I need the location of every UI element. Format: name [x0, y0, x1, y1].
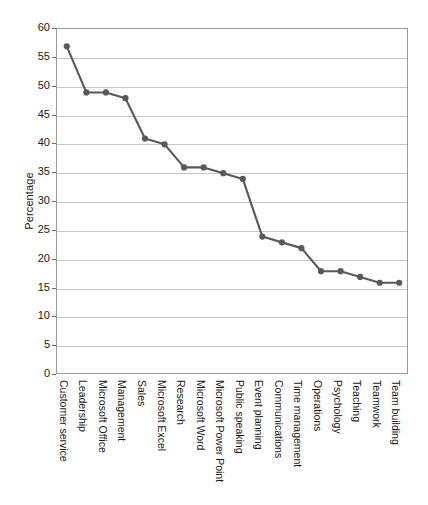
x-axis-tick-label: Team building	[389, 380, 403, 445]
x-axis-tick-label: Teamwork	[370, 380, 384, 428]
data-point	[201, 164, 207, 170]
y-axis-tick-label: 15	[18, 281, 50, 293]
data-point	[103, 89, 109, 95]
data-series-line	[57, 29, 409, 375]
plot-area	[56, 28, 408, 374]
data-point	[161, 141, 167, 147]
x-axis-tick-label: Teaching	[350, 380, 364, 422]
data-point	[142, 135, 148, 141]
x-axis-tick-label: Time management	[291, 380, 305, 467]
y-axis-tick-label: 10	[18, 309, 50, 321]
data-point	[357, 274, 363, 280]
y-axis-tick-label: 0	[18, 367, 50, 379]
y-axis-tick-label: 25	[18, 223, 50, 235]
data-point	[64, 43, 70, 49]
line-chart: Percentage 051015202530354045505560 Cust…	[0, 0, 428, 505]
x-axis-tick-label: Operations	[311, 380, 325, 431]
data-point	[259, 234, 265, 240]
data-point	[240, 176, 246, 182]
x-axis-tick-label: Microsoft Word	[194, 380, 208, 450]
y-axis-tick-label: 50	[18, 79, 50, 91]
y-axis-tick-label: 55	[18, 50, 50, 62]
x-axis-tick-label: Research	[174, 380, 188, 425]
x-axis-tick-label: Microsoft Power Point	[213, 380, 227, 482]
data-point	[337, 268, 343, 274]
y-axis-tick-label: 60	[18, 21, 50, 33]
x-axis-tick-label: Public speaking	[233, 380, 247, 454]
y-axis-tick-mark	[52, 374, 56, 375]
data-point	[396, 280, 402, 286]
data-point	[83, 89, 89, 95]
data-point	[279, 239, 285, 245]
x-axis-tick-label: Communications	[272, 380, 286, 458]
data-point	[377, 280, 383, 286]
x-axis-tick-label: Management	[115, 380, 129, 441]
x-axis-tick-label: Microsoft Office	[96, 380, 110, 453]
x-axis-tick-label: Microsoft Excel	[155, 380, 169, 451]
y-axis-tick-label: 20	[18, 252, 50, 264]
y-axis-tick-label: 5	[18, 338, 50, 350]
x-axis-tick-label: Event planning	[252, 380, 266, 449]
y-axis-tick-label: 35	[18, 165, 50, 177]
data-point	[181, 164, 187, 170]
data-point	[318, 268, 324, 274]
data-point	[298, 245, 304, 251]
series-markers	[64, 43, 403, 286]
data-point	[122, 95, 128, 101]
y-axis-tick-label: 40	[18, 136, 50, 148]
x-axis-tick-label: Sales	[135, 380, 149, 406]
x-axis-tick-label: Customer service	[57, 380, 71, 462]
y-axis-tick-label: 45	[18, 108, 50, 120]
series-polyline	[67, 46, 399, 282]
data-point	[220, 170, 226, 176]
x-axis-tick-label: Leadership	[76, 380, 90, 432]
x-axis-tick-label: Psychology	[331, 380, 345, 434]
y-axis-tick-label: 30	[18, 194, 50, 206]
